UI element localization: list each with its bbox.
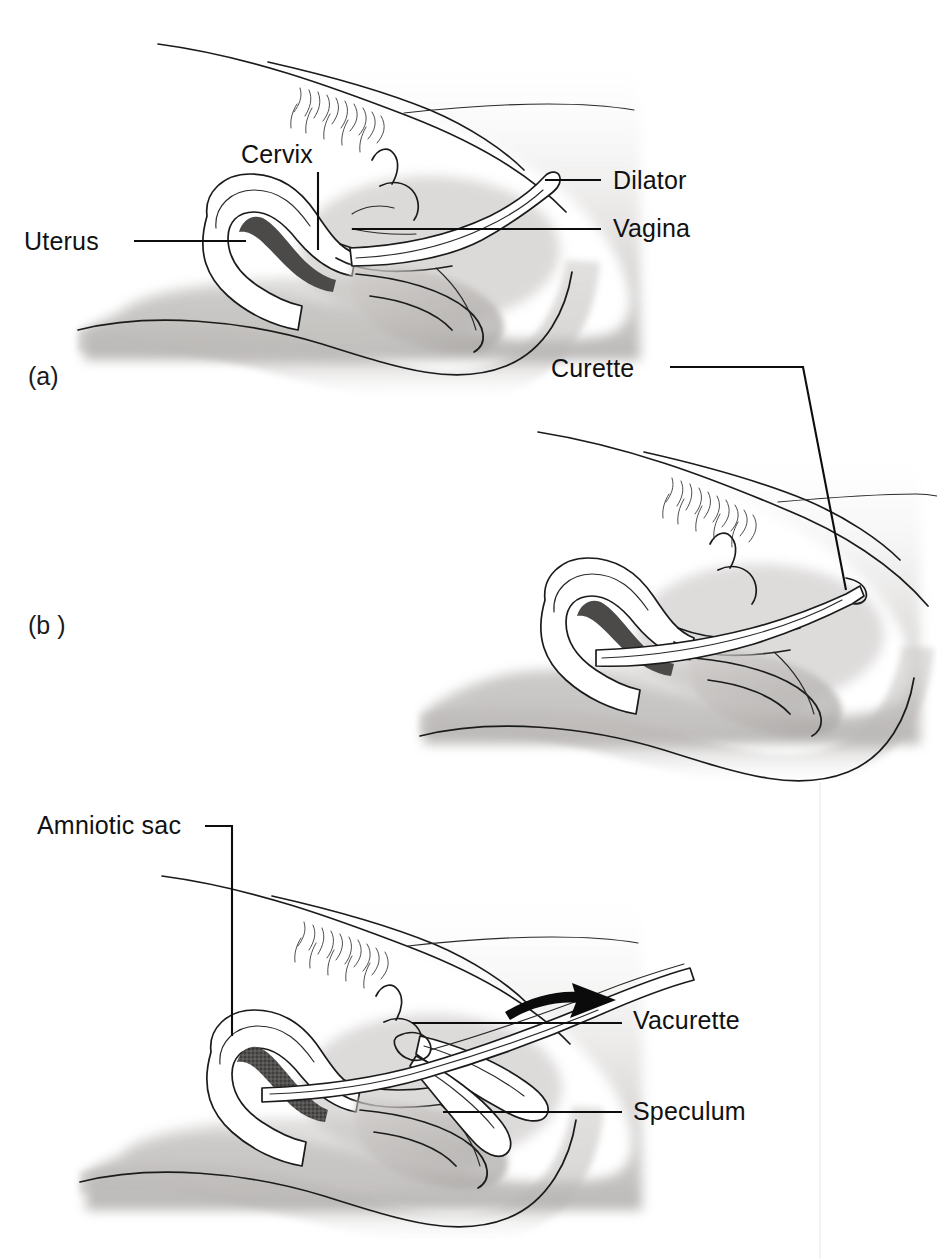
figure-root: Cervix Uterus Dilator Vagina Curette Amn… bbox=[0, 0, 937, 1258]
label-vagina: Vagina bbox=[613, 214, 690, 242]
label-curette: Curette bbox=[551, 354, 634, 382]
panel-letter-b: (b ) bbox=[28, 611, 66, 639]
label-uterus: Uterus bbox=[24, 227, 99, 255]
panel-letter-a: (a) bbox=[28, 362, 59, 390]
label-amniotic-sac: Amniotic sac bbox=[37, 811, 181, 839]
medical-illustration-canvas: Cervix Uterus Dilator Vagina Curette Amn… bbox=[0, 0, 937, 1258]
label-speculum: Speculum bbox=[633, 1097, 746, 1125]
label-cervix: Cervix bbox=[241, 140, 313, 168]
label-vacurette: Vacurette bbox=[633, 1006, 740, 1034]
label-dilator: Dilator bbox=[613, 166, 687, 194]
